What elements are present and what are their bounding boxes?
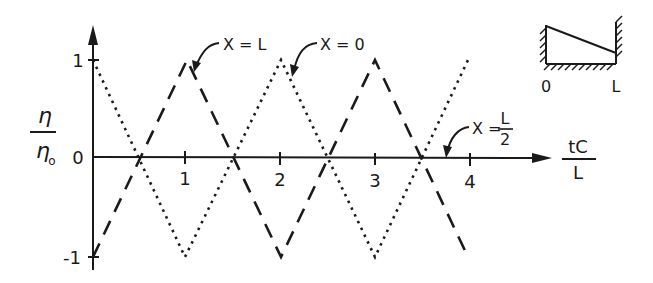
x-axis-label: tC L: [562, 136, 596, 183]
inset-label-0: 0: [541, 77, 551, 96]
svg-text:X = L: X = L: [223, 35, 267, 54]
y-axis-label: η η o: [30, 103, 56, 168]
x-tick-label-1: 1: [179, 168, 190, 189]
x-label-numerator: tC: [568, 136, 588, 157]
annotation-x-equals-0: X = 0: [290, 35, 365, 77]
svg-text:X =: X =: [472, 119, 501, 138]
y-axis-arrow-icon: [88, 25, 98, 45]
y-label-subscript: o: [48, 154, 55, 168]
y-label-numerator: η: [38, 103, 52, 128]
x-tick-label-4: 4: [464, 171, 475, 192]
y-tick-label-m1: -1: [63, 247, 81, 268]
svg-text:L: L: [501, 109, 510, 128]
x-tick-label-3: 3: [369, 170, 380, 191]
chart: 1 0 -1 1 2 3 4 η η o tC L X = L X = 0 X …: [0, 0, 653, 283]
x-tick-label-2: 2: [274, 169, 285, 190]
svg-text:2: 2: [500, 130, 510, 149]
x-label-denominator: L: [573, 162, 583, 183]
inset-label-l: L: [612, 77, 621, 96]
annotation-x-equals-l-half: X = L 2: [443, 109, 513, 158]
x-axis: [93, 157, 540, 158]
arrow-icon: [443, 145, 452, 158]
arrow-icon: [192, 60, 201, 72]
arrow-icon: [290, 64, 299, 77]
inset-container-diagram: [540, 16, 622, 70]
y-tick-label-0: 0: [72, 147, 83, 168]
x-axis-arrow-icon: [532, 153, 552, 163]
svg-text:X = 0: X = 0: [320, 35, 365, 54]
annotation-x-equals-l: X = L: [192, 35, 267, 72]
y-tick-label-1: 1: [72, 50, 83, 71]
